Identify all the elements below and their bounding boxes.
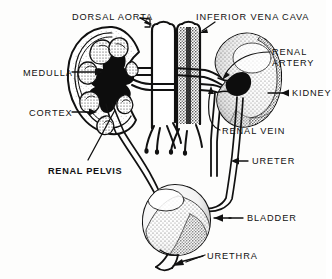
label-kidney: KIDNEY [292, 88, 332, 99]
label-renal-vein: RENAL VEIN [222, 126, 285, 137]
label-renal-pelvis: RENAL PELVIS [48, 166, 122, 177]
label-ureter: URETER [252, 156, 295, 167]
label-renal-artery-line1: RENAL [272, 47, 307, 58]
bladder [140, 182, 216, 260]
leader-inferior-vena-cava [199, 22, 215, 33]
label-medulla: MEDULLA [23, 68, 73, 79]
leader-bladder [214, 214, 243, 222]
left-kidney-cross-section [68, 27, 139, 135]
leader-ureter [231, 158, 248, 165]
label-dorsal-aorta: DORSAL AORTA [72, 12, 153, 23]
urethra [156, 254, 178, 270]
label-urethra: URETHRA [207, 251, 258, 262]
label-cortex: CORTEX [29, 108, 73, 119]
label-inferior-vena-cava: INFERIOR VENA CAVA [196, 12, 309, 23]
label-renal-artery-line2: ARTERY [272, 58, 314, 69]
label-bladder: BLADDER [247, 213, 297, 224]
